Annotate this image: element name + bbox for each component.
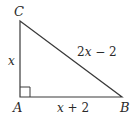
triangle-diagram: C A B x 2x − 2 x + 2 [0, 0, 132, 118]
right-angle-marker [20, 87, 30, 97]
side-label-ab: x + 2 [57, 101, 89, 115]
triangle-abc [20, 21, 122, 97]
vertex-label-c: C [14, 4, 24, 19]
vertex-label-a: A [12, 100, 22, 115]
side-label-ac: x [8, 54, 15, 68]
side-label-bc: 2x − 2 [77, 45, 117, 59]
vertex-label-b: B [119, 100, 130, 115]
